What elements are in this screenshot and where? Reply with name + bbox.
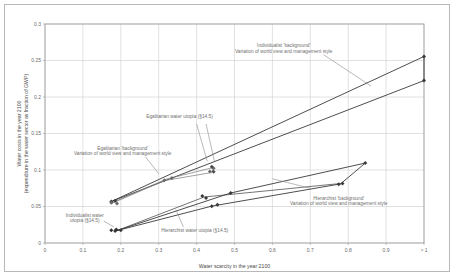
chart-canvas: 00.10.20.30.40.50.60.70.80.9> 1 00.050.1… bbox=[0, 0, 457, 280]
y-tick-label: 0.3 bbox=[34, 21, 41, 27]
y-tick-label: 0.25 bbox=[31, 57, 41, 63]
y-tick-label: 0.05 bbox=[31, 203, 41, 209]
y-tick-labels: 00.050.10.150.20.250.3 bbox=[31, 21, 45, 246]
leader-line-individualist-background bbox=[324, 55, 371, 86]
leader-line-hierarchist-background bbox=[272, 179, 310, 188]
annotation-egalitarian-background: Egalitarian 'background' bbox=[97, 146, 148, 151]
data-point-marker bbox=[337, 182, 341, 186]
y-tick-label: 0.2 bbox=[34, 94, 41, 100]
y-tick-label: 0.1 bbox=[34, 167, 41, 173]
annotation-hierarchist-water-utopia: Hierarchist water utopia (§14.5) bbox=[161, 228, 228, 233]
data-point-marker bbox=[210, 204, 214, 208]
chart-svg: 00.10.20.30.40.50.60.70.80.9> 1 00.050.1… bbox=[0, 0, 457, 280]
x-tick-label: 0.2 bbox=[117, 247, 124, 253]
y-axis-title-line1: Water costs in the year 2100 bbox=[16, 100, 22, 166]
data-point-marker bbox=[109, 228, 113, 232]
data-point-marker bbox=[341, 182, 345, 186]
x-tick-label: 0.1 bbox=[79, 247, 86, 253]
leader-line-egalitarian-background bbox=[145, 157, 158, 174]
data-point-marker bbox=[215, 203, 219, 207]
x-tick-labels: 00.10.20.30.40.50.60.70.80.9> 1 bbox=[44, 243, 428, 253]
y-tick-label: 0.15 bbox=[31, 130, 41, 136]
annotation-hierarchist-background-line2: Variation of world view and management s… bbox=[290, 201, 388, 206]
y-tick-label: 0 bbox=[38, 240, 41, 246]
annotation-labels: Individualist 'background'Variation of w… bbox=[66, 43, 388, 233]
annotation-individualist-water-utopia-line2: utopia (§14.5) bbox=[70, 218, 100, 223]
x-tick-label: 0.7 bbox=[307, 247, 314, 253]
x-axis-title: Water scarcity in the year 2100 bbox=[199, 263, 270, 269]
data-point-marker bbox=[422, 54, 426, 58]
x-tick-label: 0.4 bbox=[193, 247, 200, 253]
x-tick-label: 0 bbox=[44, 247, 47, 253]
screenshot-root: 00.10.20.30.40.50.60.70.80.9> 1 00.050.1… bbox=[0, 0, 457, 280]
annotation-egalitarian-background-line2: Variation of world view and management s… bbox=[74, 151, 172, 156]
annotation-hierarchist-background: Hierarchist 'background' bbox=[313, 196, 364, 201]
x-tick-label: 0.3 bbox=[155, 247, 162, 253]
annotation-individualist-water-utopia: Individualist water bbox=[66, 213, 105, 218]
axis-titles: Water scarcity in the year 2100Water cos… bbox=[16, 74, 270, 269]
annotation-individualist-background: Individualist 'background' bbox=[257, 43, 310, 48]
x-tick-label: 0.9 bbox=[383, 247, 390, 253]
x-tick-label: 0.5 bbox=[231, 247, 238, 253]
hierarchist-mid-chord bbox=[117, 184, 341, 231]
annotation-egalitarian-water-utopia: Egalitarian water utopia (§14.5) bbox=[146, 114, 213, 119]
leader-line-egalitarian-water-utopia bbox=[197, 124, 208, 161]
annotation-individualist-background-line2: Variation of world view and management s… bbox=[235, 49, 333, 54]
leader-line-hierarchist-water-utopia bbox=[176, 209, 184, 227]
individualist-upper-envelope bbox=[112, 56, 424, 201]
x-tick-label: 0.8 bbox=[345, 247, 352, 253]
egalitarian-envelope bbox=[112, 167, 213, 203]
data-point-marker bbox=[422, 79, 426, 83]
leader-line-individualist-water-utopia bbox=[104, 221, 114, 227]
x-tick-label: > 1 bbox=[420, 247, 427, 253]
x-tick-label: 0.6 bbox=[269, 247, 276, 253]
y-axis-title-line2: (expenditure in the water sector as frac… bbox=[23, 74, 29, 194]
gridlines bbox=[45, 24, 424, 243]
